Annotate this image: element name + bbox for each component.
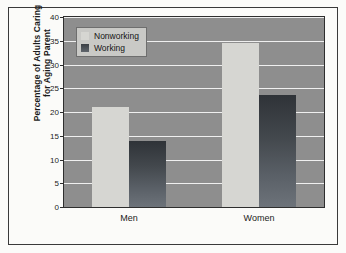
- y-axis-tick-label: 30: [39, 60, 59, 69]
- plot-area: NonworkingWorking: [63, 16, 325, 208]
- bar-women-nonworking: [222, 43, 259, 207]
- bar-men-nonworking: [92, 107, 129, 207]
- chart-figure: Percentage of Adults Caring for Aging Pa…: [0, 0, 346, 253]
- x-axis-label-women: Women: [244, 213, 275, 223]
- legend-label: Working: [94, 43, 125, 53]
- y-axis-tick-label: 25: [39, 84, 59, 93]
- legend-swatch-nonworking: [81, 32, 89, 40]
- y-axis-tick-labels: 4035302520151050: [38, 16, 59, 206]
- y-axis-tick-label: 10: [39, 155, 59, 164]
- gridline: [64, 17, 324, 18]
- plot-inner: NonworkingWorking: [64, 17, 324, 207]
- legend-item: Nonworking: [81, 31, 139, 41]
- legend-item: Working: [81, 43, 139, 53]
- legend-label: Nonworking: [94, 31, 139, 41]
- y-axis-tick-label: 15: [39, 131, 59, 140]
- gridline: [64, 88, 324, 89]
- y-axis-tick-label: 20: [39, 108, 59, 117]
- legend: NonworkingWorking: [76, 27, 147, 57]
- y-axis-tick-label: 35: [39, 36, 59, 45]
- bar-men-working: [129, 141, 166, 208]
- y-axis-tick-label: 0: [39, 203, 59, 212]
- y-axis-tick-label: 40: [39, 13, 59, 22]
- y-axis-tick-label: 5: [39, 179, 59, 188]
- bar-women-working: [259, 95, 296, 207]
- gridline: [64, 65, 324, 66]
- legend-swatch-working: [81, 44, 89, 52]
- x-axis-label-men: Men: [120, 213, 138, 223]
